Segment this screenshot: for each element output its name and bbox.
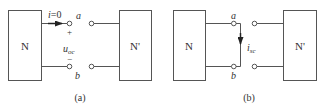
terminal-a-left: [67, 21, 72, 26]
terminal-b-right-b: [252, 64, 257, 69]
current-label-a: i=0: [48, 9, 61, 20]
voltage-label-uoc: uoc: [63, 43, 76, 56]
panel-a: N N' i=0 a b + − uoc (a): [9, 9, 152, 104]
panel-b: N N' a b isc (b): [174, 10, 317, 104]
plus-sign: +: [67, 27, 72, 37]
current-label-isc: isc: [247, 42, 257, 55]
network-n-label-a: N: [21, 40, 29, 52]
terminal-b-left: [67, 64, 72, 69]
network-n-prime-label-b: N': [295, 40, 305, 52]
terminal-b-right: [89, 64, 94, 69]
caption-b: (b): [243, 92, 255, 104]
terminal-a-right: [89, 21, 94, 26]
network-n-label-b: N: [185, 40, 193, 52]
circuit-diagram: N N' i=0 a b + − uoc (a) N N': [0, 0, 323, 111]
terminal-a-right-b: [252, 21, 257, 26]
terminal-b-label-b: b: [231, 70, 236, 81]
terminal-b-label: b: [75, 70, 80, 81]
terminal-a-label: a: [76, 10, 81, 21]
terminal-b-left-b: [232, 64, 237, 69]
terminal-a-label-b: a: [231, 10, 236, 21]
caption-a: (a): [74, 92, 85, 104]
terminal-a-left-b: [232, 21, 237, 26]
network-n-prime-label-a: N': [130, 40, 140, 52]
